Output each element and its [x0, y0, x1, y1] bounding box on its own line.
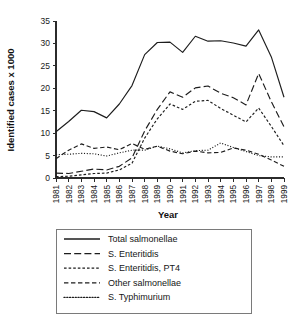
x-tick-label: 1982: [65, 185, 74, 204]
y-tick-label: 0: [45, 173, 50, 183]
legend-label: S. Enteritidis, PT4: [108, 263, 180, 273]
x-axis: 1981198219831984198519861987198819891990…: [52, 178, 289, 203]
x-tick-label: 1998: [267, 185, 276, 204]
x-tick-label: 1994: [217, 185, 226, 204]
line-chart-svg: 05101520253035 1981198219831984198519861…: [0, 0, 300, 318]
series-line: [56, 143, 284, 157]
y-tick-label: 35: [41, 16, 51, 26]
series-line: [56, 73, 284, 173]
legend-label: Total salmonellae: [108, 234, 178, 244]
x-tick-label: 1999: [280, 185, 289, 204]
x-tick-label: 1996: [242, 185, 251, 204]
x-tick-label: 1985: [103, 185, 112, 204]
x-tick-label: 1993: [204, 185, 213, 204]
x-tick-label: 1989: [153, 185, 162, 204]
legend-label: Other salmonellae: [108, 278, 181, 288]
x-tick-label: 1983: [77, 185, 86, 204]
x-tick-label: 1997: [255, 185, 264, 204]
y-axis-title: Identified cases x 1000: [5, 49, 16, 152]
x-tick-label: 1991: [179, 185, 188, 204]
legend-label: S. Typhimurium: [108, 292, 170, 302]
y-tick-label: 30: [41, 38, 51, 48]
series-layer: [56, 30, 284, 177]
x-axis-title: Year: [158, 209, 178, 220]
chart-figure: 05101520253035 1981198219831984198519861…: [0, 0, 300, 318]
series-line: [56, 30, 284, 132]
chart-legend: Total salmonellaeS. EnteritidisS. Enteri…: [56, 229, 251, 313]
x-tick-label: 1992: [191, 185, 200, 204]
y-tick-label: 5: [45, 151, 50, 161]
x-tick-label: 1984: [90, 185, 99, 204]
y-tick-label: 10: [41, 128, 51, 138]
legend-label: S. Enteritidis: [108, 249, 159, 259]
x-tick-label: 1988: [141, 185, 150, 204]
x-tick-label: 1986: [115, 185, 124, 204]
x-tick-label: 1995: [229, 185, 238, 204]
series-line: [56, 100, 284, 176]
x-tick-label: 1990: [166, 185, 175, 204]
y-axis: 05101520253035: [41, 16, 56, 183]
x-tick-label: 1987: [128, 185, 137, 204]
y-tick-label: 20: [41, 83, 51, 93]
series-line: [56, 143, 284, 166]
y-tick-label: 15: [41, 106, 51, 116]
x-tick-label: 1981: [52, 185, 61, 204]
y-tick-label: 25: [41, 61, 51, 71]
